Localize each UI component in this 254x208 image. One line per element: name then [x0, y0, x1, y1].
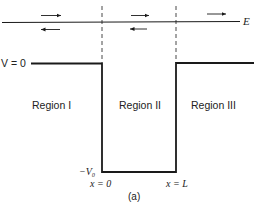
v-zero-label: V = 0 — [1, 57, 26, 69]
region-3-label: Region III — [191, 99, 236, 111]
square-well-diagram: E V = 0 −V₀ x = 0 x = L Region I Region … — [0, 0, 254, 208]
x-zero-label: x = 0 — [89, 178, 111, 189]
region-1-label: Region I — [32, 99, 71, 111]
energy-level-line — [2, 22, 240, 23]
energy-label: E — [242, 15, 250, 27]
x-l-label: x = L — [165, 178, 188, 189]
v-bottom-label: −V₀ — [79, 166, 96, 177]
figure-caption: (a) — [128, 191, 140, 202]
potential-well-curve — [31, 63, 254, 172]
region-2-label: Region II — [119, 99, 161, 111]
